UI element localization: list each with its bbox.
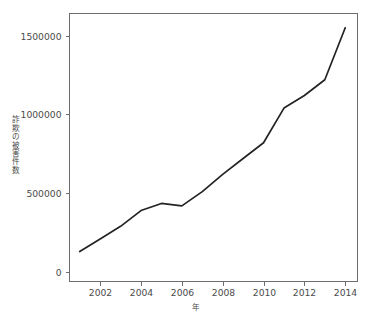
x-tick-label: 2004 bbox=[130, 287, 154, 298]
y-tick-label: 500000 bbox=[26, 188, 61, 199]
y-tick-label: 1500000 bbox=[21, 31, 62, 42]
y-axis-title-char: 数 bbox=[12, 165, 20, 175]
x-axis-tick-labels: 2002200420062008201020122014 bbox=[89, 287, 358, 298]
x-tick-label: 2012 bbox=[293, 287, 316, 298]
x-tick-label: 2006 bbox=[171, 287, 195, 298]
chart-figure: 050000010000001500000 200220042006200820… bbox=[0, 0, 373, 326]
x-tick-label: 2008 bbox=[212, 287, 236, 298]
x-axis-title: 年 bbox=[192, 302, 200, 312]
plot-frame bbox=[70, 14, 358, 282]
y-axis-title: 詐欺の被害件数 bbox=[12, 114, 20, 174]
x-tick-label: 2014 bbox=[334, 287, 358, 298]
x-axis-ticks bbox=[101, 282, 346, 286]
data-series-line bbox=[80, 28, 346, 252]
y-tick-label: 0 bbox=[56, 267, 62, 278]
y-axis-tick-labels: 050000010000001500000 bbox=[21, 31, 62, 278]
line-chart: 050000010000001500000 200220042006200820… bbox=[0, 0, 373, 326]
y-tick-label: 1000000 bbox=[21, 109, 62, 120]
x-tick-label: 2010 bbox=[253, 287, 277, 298]
y-axis-ticks bbox=[66, 37, 70, 273]
x-tick-label: 2002 bbox=[89, 287, 112, 298]
